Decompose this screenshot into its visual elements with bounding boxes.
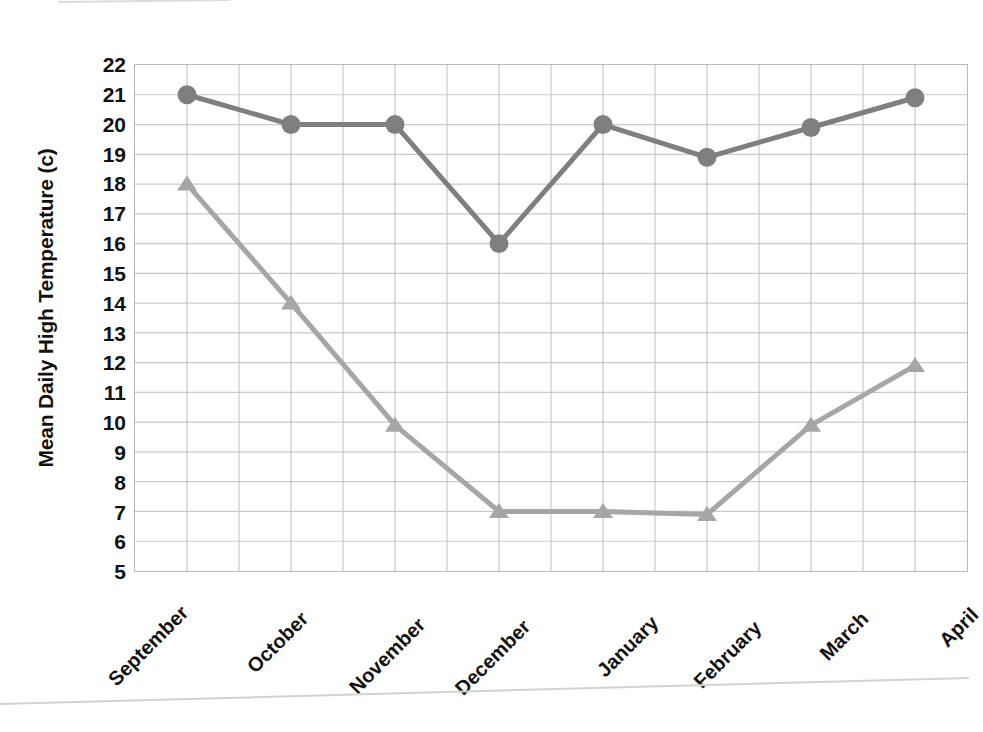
x-tick-november: November bbox=[301, 613, 430, 732]
x-tick-september: September bbox=[74, 601, 193, 720]
x-tick-october: October bbox=[194, 607, 313, 726]
x-tick-april: April bbox=[882, 603, 983, 704]
x-tick-january: January bbox=[544, 611, 663, 730]
x-tick-february: February bbox=[644, 616, 766, 732]
x-tick-march: March bbox=[765, 607, 873, 715]
